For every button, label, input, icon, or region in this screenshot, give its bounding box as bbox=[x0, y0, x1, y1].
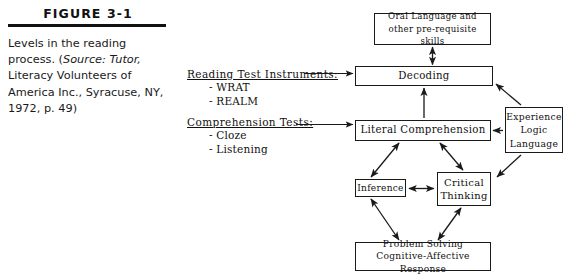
node-experience-logic-language: Experience Logic Language bbox=[505, 107, 563, 153]
figure-root: FIGURE 3-1 Levels in the reading process… bbox=[0, 0, 587, 280]
caption-source-italic: Source: Tutor, bbox=[63, 53, 141, 66]
annotation-comprehension-heading: Comprehension Tests: bbox=[187, 116, 313, 128]
node-decoding: Decoding bbox=[355, 66, 493, 86]
edge-literal-inference bbox=[371, 143, 399, 177]
node-inference: Inference bbox=[355, 179, 406, 197]
caption-line-4: America Inc., Syracuse, NY, bbox=[8, 86, 163, 99]
node-experience-line-2: Logic bbox=[520, 124, 547, 135]
node-experience-line-1: Experience bbox=[506, 111, 561, 122]
edge-critical-problem bbox=[438, 208, 461, 240]
node-critical-line-2: Thinking bbox=[440, 190, 487, 201]
node-literal-comprehension-text: Literal Comprehension bbox=[357, 124, 488, 137]
node-literal-comprehension: Literal Comprehension bbox=[355, 120, 491, 141]
annotation-reading-heading: Reading Test Instruments: bbox=[187, 68, 338, 80]
node-oral-line-1: Oral Language and bbox=[388, 11, 477, 21]
node-decoding-text: Decoding bbox=[395, 70, 452, 83]
node-oral-language: Oral Language and other pre-requisite sk… bbox=[374, 13, 491, 45]
annotation-reading-items: - WRAT - REALM bbox=[187, 81, 338, 108]
annotation-item-listening: - Listening bbox=[209, 143, 313, 157]
edge-experience-to-critical bbox=[497, 155, 521, 177]
figure-caption-block: FIGURE 3-1 Levels in the reading process… bbox=[8, 6, 168, 117]
annotation-reading-test-instruments: Reading Test Instruments: - WRAT - REALM bbox=[187, 68, 338, 108]
node-problem-line-2: Cognitive-Affective Response bbox=[376, 251, 470, 274]
node-inference-text: Inference bbox=[354, 182, 407, 195]
node-oral-language-text: Oral Language and other pre-requisite sk… bbox=[375, 10, 490, 48]
caption-line-2-prefix: process. ( bbox=[8, 53, 63, 66]
figure-rule-divider bbox=[8, 24, 166, 27]
figure-caption-text: Levels in the reading process. (Source: … bbox=[8, 36, 166, 117]
annotation-comprehension-tests: Comprehension Tests: - Cloze - Listening bbox=[187, 116, 313, 156]
annotation-item-realm: - REALM bbox=[209, 95, 338, 109]
node-critical-thinking: Critical Thinking bbox=[437, 172, 491, 206]
edge-inference-problem bbox=[371, 199, 399, 240]
node-experience-line-3: Language bbox=[510, 138, 559, 149]
caption-line-3: Literacy Volunteers of bbox=[8, 69, 131, 82]
node-problem-solving-text: Problem Solving Cognitive-Affective Resp… bbox=[356, 238, 490, 276]
annotation-item-cloze: - Cloze bbox=[209, 129, 313, 143]
annotation-item-wrat: - WRAT bbox=[209, 81, 338, 95]
node-problem-solving: Problem Solving Cognitive-Affective Resp… bbox=[355, 242, 491, 271]
figure-number-label: FIGURE 3-1 bbox=[8, 6, 168, 24]
node-problem-line-1: Problem Solving bbox=[383, 239, 463, 249]
node-oral-line-2: other pre-requisite skills bbox=[388, 24, 476, 47]
node-critical-line-1: Critical bbox=[444, 177, 484, 188]
edge-experience-to-decoding bbox=[496, 84, 521, 105]
annotation-comprehension-items: - Cloze - Listening bbox=[187, 129, 313, 156]
caption-line-5: 1972, p. 49) bbox=[8, 102, 77, 115]
node-critical-thinking-text: Critical Thinking bbox=[437, 176, 490, 202]
edge-literal-critical bbox=[440, 143, 463, 170]
node-experience-text: Experience Logic Language bbox=[503, 110, 564, 151]
caption-line-1: Levels in the reading bbox=[8, 37, 126, 50]
